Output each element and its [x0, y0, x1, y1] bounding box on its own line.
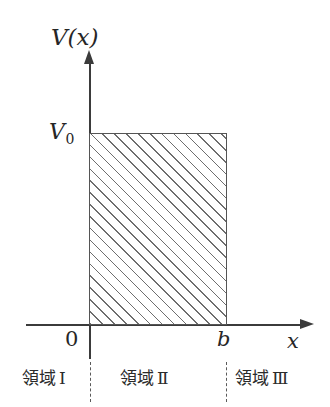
region-label-3: 領域Ⅲ [235, 370, 288, 387]
region-label-3-text: 領域 [235, 368, 269, 388]
barrier-height-label: V0 [49, 121, 74, 146]
region-label-3-numeral: Ⅲ [272, 368, 288, 388]
potential-barrier-region [89, 133, 227, 325]
region-label-1-text: 領域 [22, 368, 56, 388]
region-label-2-numeral: Ⅱ [157, 368, 169, 388]
barrier-width-label: b [217, 329, 230, 350]
region-label-2-text: 領域 [120, 368, 154, 388]
barrier-height-symbol: V [49, 119, 65, 144]
x-axis-label: x [287, 331, 299, 352]
region-label-1-numeral: Ⅰ [59, 368, 66, 388]
barrier-height-subscript: 0 [65, 131, 74, 147]
origin-label: 0 [65, 329, 78, 350]
region-label-1: 領域Ⅰ [22, 370, 66, 387]
y-axis-arrowhead-icon [84, 50, 94, 64]
region-label-2: 領域Ⅱ [120, 370, 169, 387]
y-axis-label: V(x) [51, 26, 99, 49]
y-axis-lower-stub [89, 326, 91, 359]
region-separator-right [226, 362, 227, 402]
potential-barrier-figure: V(x) V0 0 b x 領域Ⅰ 領域Ⅱ 領域Ⅲ [0, 0, 330, 407]
region-separator-left [90, 362, 91, 402]
x-axis-arrowhead-icon [300, 319, 314, 329]
